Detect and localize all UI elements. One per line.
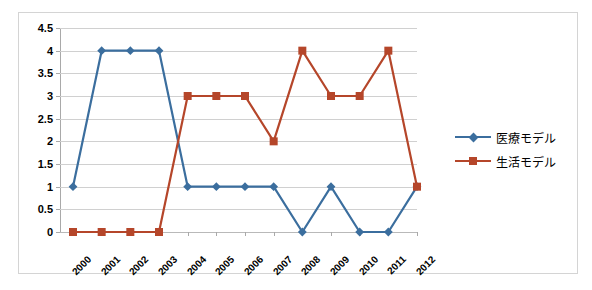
x-axis-label: 2012 (430, 238, 454, 262)
series-1 (69, 47, 421, 236)
x-axis-label: 2009 (344, 238, 368, 262)
x-axis-label: 2011 (401, 238, 424, 261)
series-line (73, 51, 417, 232)
x-axis-tick (274, 232, 275, 236)
x-axis-tick (188, 232, 189, 236)
data-point-square (184, 92, 192, 100)
x-axis-label: 2001 (114, 238, 138, 262)
data-point-square (413, 183, 421, 191)
chart-container: 4.543.532.521.510.50 2000200120022003200… (18, 12, 578, 274)
data-point-diamond (241, 182, 250, 191)
legend-diamond-icon (468, 132, 478, 142)
x-axis-tick (331, 232, 332, 236)
y-axis-label: 3 (47, 90, 53, 102)
x-axis-label: 2006 (258, 238, 282, 262)
y-axis-label: 1 (47, 181, 53, 193)
x-axis-label: 2004 (200, 238, 224, 262)
data-point-square (241, 92, 249, 100)
y-axis-label: 2 (47, 135, 53, 147)
chart-legend: 医療モデル 生活モデル (455, 125, 556, 173)
data-point-square (270, 137, 278, 145)
x-axis-label: 2002 (143, 238, 167, 262)
series-0 (69, 46, 422, 236)
x-axis-label: 2010 (372, 238, 396, 262)
x-axis-label: 2008 (315, 238, 339, 262)
legend-item-series-1: 生活モデル (455, 149, 556, 173)
data-point-diamond (212, 182, 221, 191)
data-point-diamond (126, 46, 135, 55)
y-axis-label: 3.5 (38, 67, 53, 79)
x-axis-label: 2003 (172, 238, 196, 262)
data-point-diamond (183, 182, 192, 191)
data-point-square (155, 228, 163, 236)
x-axis-tick (245, 232, 246, 236)
legend-marker-diamond-icon (455, 130, 491, 144)
data-point-diamond (97, 46, 106, 55)
data-point-square (384, 47, 392, 55)
x-axis-label: 2007 (286, 238, 310, 262)
data-point-square (327, 92, 335, 100)
y-axis-label: 4 (47, 45, 53, 57)
x-axis-tick (417, 232, 418, 236)
data-point-square (298, 47, 306, 55)
y-axis-label: 0.5 (38, 203, 53, 215)
y-axis-tick (56, 232, 60, 233)
x-axis-tick (216, 232, 217, 236)
legend-label-series-0: 医療モデル (496, 129, 556, 146)
data-point-square (356, 92, 364, 100)
data-point-square (212, 92, 220, 100)
y-axis-label: 1.5 (38, 158, 53, 170)
y-axis-label: 4.5 (38, 22, 53, 34)
series-line (73, 51, 417, 232)
series-layer (60, 28, 417, 232)
x-axis-label: 2005 (229, 238, 253, 262)
data-point-square (69, 228, 77, 236)
y-axis-label: 0 (47, 226, 53, 238)
y-axis-label: 2.5 (38, 113, 53, 125)
x-axis-label: 2000 (86, 238, 110, 262)
legend-label-series-1: 生活モデル (496, 153, 556, 170)
data-point-square (98, 228, 106, 236)
data-point-diamond (69, 182, 78, 191)
data-point-square (126, 228, 134, 236)
plot-area: 4.543.532.521.510.50 2000200120022003200… (60, 28, 417, 232)
legend-marker-square-icon (455, 154, 491, 168)
legend-item-series-0: 医療モデル (455, 125, 556, 149)
legend-square-icon (469, 157, 477, 165)
data-point-diamond (155, 46, 164, 55)
